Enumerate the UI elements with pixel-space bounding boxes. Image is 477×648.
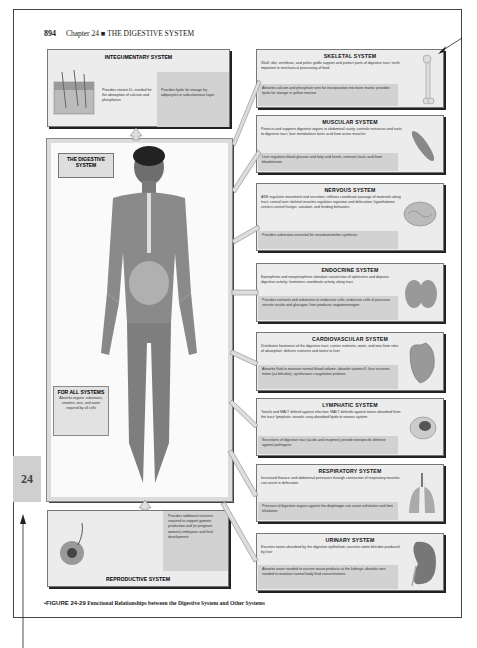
figure-caption: •FIGURE 24-29 Functional Relationships b… <box>44 600 265 606</box>
figure-number: •FIGURE 24-29 <box>44 600 86 606</box>
figure-caption-text: Functional Relationships between the Dig… <box>87 600 265 606</box>
connector-arrows <box>0 0 477 648</box>
